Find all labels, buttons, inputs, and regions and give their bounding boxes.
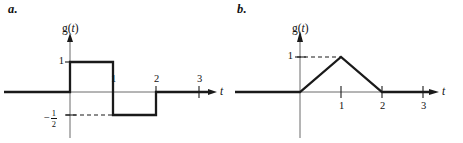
y-tick-label-1-a: 1 [53,55,64,66]
signal-curve-b [235,57,429,92]
minus-sign-a: − [44,113,50,124]
y-axis-label-a: g(t) [62,22,79,34]
panel-b-plot [231,0,463,143]
fraction-numerator-a: 1 [52,109,56,118]
y-axis-label-b: g(t) [292,22,309,34]
x-tick-label-3-b: 3 [418,100,429,111]
y-axis-arrow-a [67,33,73,42]
y-tick-label-1-b: 1 [282,50,293,61]
panel-a-plot [0,0,232,143]
x-axis-arrow-b [429,89,439,95]
x-axis-label-a: t [220,85,223,97]
fraction-denominator-a: 2 [52,119,56,128]
fraction-stack-a: 1 2 [51,109,57,128]
panel-a: a. g(t) t 1 − [0,0,232,143]
x-tick-label-3-a: 3 [194,73,205,84]
x-axis-arrow-a [208,89,217,95]
signal-curve-a [4,62,208,115]
y-tick-label-neg-half-a: − 1 2 [44,109,57,128]
x-tick-label-2-b: 2 [377,100,388,111]
figure-container: a. g(t) t 1 − [0,0,463,143]
panel-b: b. g(t) t 1 1 2 3 [231,0,463,143]
x-axis-label-b: t [442,85,445,97]
x-tick-label-1-b: 1 [336,100,347,111]
x-tick-label-1-a: 1 [108,73,119,84]
x-tick-label-2-a: 2 [151,73,162,84]
